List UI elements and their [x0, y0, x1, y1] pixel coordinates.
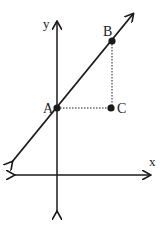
- y-axis-label: y: [43, 16, 50, 31]
- line-ab: [12, 14, 133, 162]
- coordinate-diagram: x y A B C: [0, 0, 164, 226]
- point-b-label: B: [103, 24, 112, 39]
- point-a: [53, 104, 60, 111]
- point-c: [107, 104, 114, 111]
- x-axis-label: x: [149, 154, 156, 169]
- point-c-label: C: [117, 101, 126, 116]
- point-a-label: A: [43, 101, 54, 116]
